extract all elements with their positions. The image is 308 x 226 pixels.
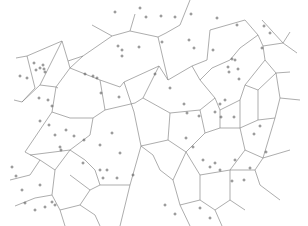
voronoi-edge [230,48,240,60]
voronoi-edge [130,14,135,31]
voronoi-edge [85,160,95,170]
site-plus-icon [11,166,14,169]
voronoi-edge [68,61,70,68]
site-plus-icon [188,39,191,42]
voronoi-edge [173,180,180,205]
site-plus-icon [199,207,202,210]
site-plus-icon [39,184,42,187]
site-plus-icon [35,69,38,72]
voronoi-edge [258,118,275,120]
site-plus-icon [164,204,167,207]
site-plus-icon [154,73,157,76]
voronoi-edge [90,118,93,135]
voronoi-edge [186,133,205,152]
site-plus-icon [139,7,142,10]
voronoi-edge [70,150,85,160]
voronoi-edge [166,25,180,33]
voronoi-edge [40,85,56,87]
voronoi-edge [260,185,280,200]
site-plus-icon [99,144,102,147]
site-plus-icon [39,67,42,70]
voronoi-edge [112,31,130,36]
site-plus-icon [231,58,234,61]
voronoi-edge [200,68,212,80]
voronoi-edge [105,103,135,110]
voronoi-edge [153,155,160,170]
site-plus-icon [51,201,54,204]
voronoi-edge [245,150,263,158]
site-plus-icon [193,47,196,50]
voronoi-edge [143,98,170,113]
voronoi-edge [215,200,230,210]
voronoi-edge [141,146,153,155]
voronoi-edge [230,150,245,170]
site-plus-icon [174,213,177,216]
site-plus-icon [111,132,114,135]
site-plus-icon [39,120,42,123]
site-plus-icon [249,167,252,170]
site-plus-icon [263,25,266,28]
voronoi-edge [95,215,100,226]
site-plus-icon [231,180,234,183]
site-plus-icon [99,169,102,172]
voronoi-edge [124,82,134,112]
voronoi-edge [143,66,159,98]
voronoi-edge [16,56,27,58]
site-plus-icon [259,125,262,128]
voronoi-edge [240,120,258,128]
voronoi-edge [215,210,222,226]
voronoi-edge [100,80,105,110]
site-plus-icon [198,115,201,118]
site-plus-icon [43,68,46,71]
voronoi-edge [240,35,258,48]
site-plus-icon [54,204,57,207]
site-plus-icon [132,174,135,177]
site-plus-icon [169,87,172,90]
site-plus-icon [224,99,227,102]
voronoi-edge [70,175,90,190]
site-plus-icon [19,75,22,78]
voronoi-edge [130,31,158,37]
voronoi-edge [52,112,70,118]
voronoi-edge [56,87,58,88]
site-plus-icon [243,179,246,182]
voronoi-edge [52,170,55,195]
voronoi-edge [158,33,166,37]
site-plus-icon [214,162,217,165]
voronoi-edge [245,85,258,90]
voronoi-sites [11,7,272,220]
voronoi-edge [134,112,141,146]
voronoi-edge [245,20,258,35]
site-plus-icon [117,45,120,48]
voronoi-edges [10,0,300,226]
voronoi-edge [280,98,300,100]
site-plus-icon [121,55,124,58]
voronoi-edge [62,41,68,61]
voronoi-edge [220,100,240,110]
voronoi-edge [35,195,52,198]
voronoi-edge [245,60,265,85]
site-plus-icon [236,24,239,27]
site-plus-icon [59,146,62,149]
voronoi-edge [14,100,22,102]
voronoi-edge [263,43,283,46]
site-plus-icon [84,73,87,76]
voronoi-edge [135,98,143,103]
site-plus-icon [216,17,219,20]
voronoi-edge [173,152,186,180]
site-plus-icon [238,78,241,81]
voronoi-edge [80,190,90,205]
voronoi-edge [276,73,280,98]
voronoi-edge [255,170,260,185]
voronoi-edge [200,98,215,110]
site-plus-icon [237,68,240,71]
voronoi-edge [30,160,40,175]
voronoi-edge [200,170,230,175]
site-plus-icon [38,97,41,100]
site-plus-icon [209,217,212,220]
voronoi-edge [158,37,168,80]
voronoi-edge [141,140,168,146]
site-plus-icon [48,124,51,127]
site-plus-icon [15,175,18,178]
voronoi-edge [92,25,112,36]
